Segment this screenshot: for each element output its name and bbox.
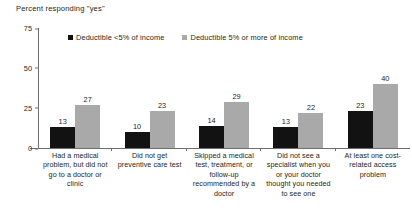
bar-value-label: 40 [373,74,398,83]
bar-slot: 22 [298,28,323,148]
bar-slot: 13 [50,28,75,148]
bar-group: 1322 [261,28,335,148]
bar[interactable] [273,127,298,148]
bar-pair: 1429 [187,28,261,148]
bar-group: 1023 [112,28,186,148]
bar-groups: 13271023142913222340 [38,28,410,148]
y-axis-tick-50: 50 [24,63,38,72]
x-axis-category-label: At least one cost-related access problem [336,151,410,198]
bar-slot: 13 [273,28,298,148]
bar-group: 1327 [38,28,112,148]
bar-group: 2340 [336,28,410,148]
y-axis-tick-25: 25 [24,103,38,112]
bar[interactable] [50,127,75,148]
y-axis-tick-0: 0 [28,144,38,153]
bar-value-label: 22 [298,103,323,112]
bar-value-label: 14 [199,116,224,125]
bar[interactable] [75,105,100,148]
bar-pair: 2340 [336,28,410,148]
bar-slot: 23 [348,28,373,148]
bar-slot: 29 [224,28,249,148]
bar-value-label: 23 [348,101,373,110]
bar-slot: 27 [75,28,100,148]
bar[interactable] [125,132,150,148]
bar-value-label: 13 [273,117,298,126]
bar-pair: 1322 [261,28,335,148]
x-axis-category-label: Had a medical problem, but did not go to… [38,151,112,198]
bar-slot: 10 [125,28,150,148]
plot-area: 7550250 13271023142913222340 [38,28,410,148]
bar-value-label: 29 [224,92,249,101]
chart-title: Percent responding "yes" [16,4,105,13]
x-axis-labels: Had a medical problem, but did not go to… [38,151,410,198]
bar-pair: 1327 [38,28,112,148]
bar-pair: 1023 [112,28,186,148]
bar-value-label: 13 [50,117,75,126]
bar[interactable] [224,102,249,148]
bar-slot: 14 [199,28,224,148]
bar-value-label: 10 [125,122,150,131]
y-axis-tick-75: 75 [24,24,38,33]
bar-value-label: 23 [150,101,175,110]
bar-slot: 40 [373,28,398,148]
x-axis-category-label: Did not get preventive care test [112,151,186,198]
bar[interactable] [199,126,224,148]
bar-group: 1429 [187,28,261,148]
bar[interactable] [348,111,373,148]
bar-slot: 23 [150,28,175,148]
bar-value-label: 27 [75,95,100,104]
bar[interactable] [150,111,175,148]
chart-container: Percent responding "yes" Deductible <5% … [0,0,412,213]
bar[interactable] [373,84,398,148]
bar[interactable] [298,113,323,148]
x-axis-category-label: Did not see a specialist when you or you… [261,151,335,198]
x-axis-line [30,148,410,149]
x-axis-category-label: Skipped a medical test, treatment, or fo… [187,151,261,198]
